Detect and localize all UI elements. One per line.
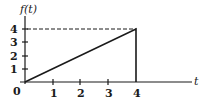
y-tick-label-1: 1 <box>10 63 18 76</box>
y-tick-label-4: 4 <box>10 23 18 36</box>
x-axis-label: t <box>194 75 199 88</box>
y-axis-label: f(t) <box>19 3 37 16</box>
y-tick-label-2: 2 <box>10 50 18 63</box>
y-tick-label-3: 3 <box>10 36 18 49</box>
origin-label: 0 <box>13 85 21 98</box>
x-tick-label-2: 2 <box>77 87 85 100</box>
function-curve <box>25 29 136 82</box>
x-tick-label-4: 4 <box>133 87 141 100</box>
x-tick-label-3: 3 <box>105 87 113 100</box>
x-tick-label-1: 1 <box>50 87 58 100</box>
function-plot: f(t) t 4 3 2 1 0 1 2 3 4 <box>0 0 207 104</box>
